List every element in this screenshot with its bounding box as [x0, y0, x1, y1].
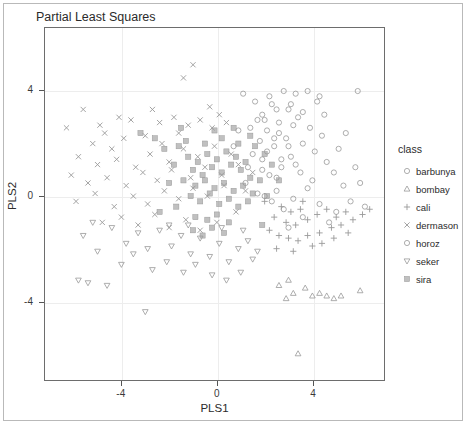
- y-axis-label: PLS2: [6, 166, 18, 226]
- x-tick-mark: [121, 381, 122, 386]
- x-tick-label: 0: [202, 388, 232, 399]
- plot-panel: [44, 27, 385, 381]
- series-seker: [76, 220, 261, 314]
- legend-item-label: barbunya: [416, 166, 456, 177]
- legend-title: class: [398, 143, 464, 155]
- legend-item-barbunya[interactable]: barbunya: [398, 162, 464, 180]
- legend-items: barbunyabombaycalidermasonhorozsekersira: [398, 162, 464, 288]
- triangle-down-icon: [398, 252, 416, 270]
- x-tick-label: 4: [298, 388, 328, 399]
- x-tick-mark: [217, 381, 218, 386]
- y-tick-label: -4: [7, 296, 33, 307]
- circle-icon: [398, 162, 416, 180]
- series-barbunya: [255, 91, 368, 230]
- series-cali: [262, 198, 373, 254]
- page-title: Partial Least Squares: [36, 10, 156, 24]
- legend-item-sira[interactable]: sira: [398, 270, 464, 288]
- legend-item-seker[interactable]: seker: [398, 252, 464, 270]
- legend-item-cali[interactable]: cali: [398, 198, 464, 216]
- chart-screenshot: Partial Least Squares -404-404 PLS1 PLS2…: [0, 0, 468, 426]
- series-dermason: [64, 62, 255, 233]
- series-bombay: [276, 277, 363, 356]
- y-tick-mark: [39, 90, 44, 91]
- y-tick-mark: [39, 196, 44, 197]
- legend-item-horoz[interactable]: horoz: [398, 234, 464, 252]
- y-tick-label: 4: [7, 84, 33, 95]
- legend-item-label: seker: [416, 256, 439, 267]
- legend-item-dermason[interactable]: dermason: [398, 216, 464, 234]
- series-sira: [138, 125, 282, 238]
- legend-item-label: sira: [416, 274, 431, 285]
- legend: class barbunyabombaycalidermasonhorozsek…: [398, 143, 464, 288]
- legend-item-label: dermason: [416, 220, 458, 231]
- triangle-up-icon: [398, 180, 416, 198]
- square-filled-icon: [398, 270, 416, 288]
- legend-item-label: bombay: [416, 184, 450, 195]
- x-mark-icon: [398, 216, 416, 234]
- x-axis-label: PLS1: [44, 402, 385, 414]
- x-tick-label: -4: [106, 388, 136, 399]
- plus-icon: [398, 198, 416, 216]
- legend-item-label: cali: [416, 202, 430, 213]
- legend-item-label: horoz: [416, 238, 440, 249]
- x-tick-mark: [313, 381, 314, 386]
- scatter-points-layer: [45, 28, 384, 380]
- legend-item-bombay[interactable]: bombay: [398, 180, 464, 198]
- circle-icon: [398, 234, 416, 252]
- y-tick-mark: [39, 302, 44, 303]
